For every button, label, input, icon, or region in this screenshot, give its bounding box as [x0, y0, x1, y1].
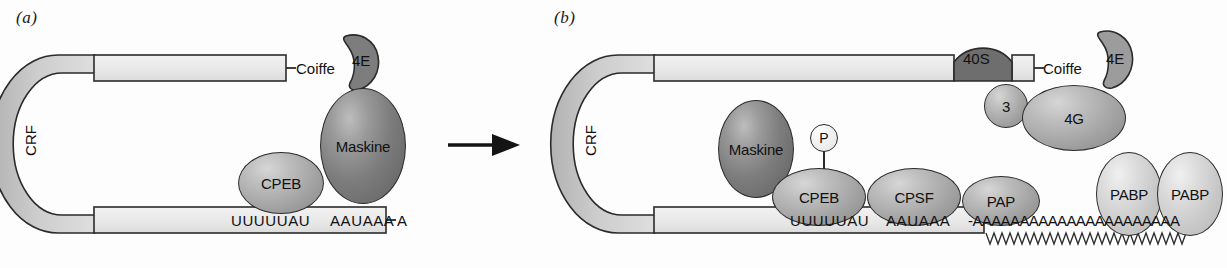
panel-b-seq-hexanucleotide: AAUAAA: [886, 212, 950, 229]
panel-b-protein-cpsf-label: CPSF: [894, 189, 933, 206]
panel-b-cap-label: Coiffe: [1043, 60, 1082, 77]
panel-b-phosphate-label: P: [819, 130, 828, 146]
panel-b-protein-4e-label: 4E: [1106, 50, 1124, 67]
panel-b-phosphate: P: [810, 124, 838, 152]
panel-b-polya-tail: -AAAAAAAAAAAAAAAAAAAAAA: [968, 212, 1179, 229]
panel-b-protein-40s-label: 40S: [963, 50, 990, 67]
panel-b-protein-pabp-2-label: PABP: [1171, 186, 1209, 203]
figure-canvas: (a): [0, 0, 1227, 268]
panel-b-protein-4g: 4G: [1022, 85, 1126, 151]
panel-b-crf-label: CRF: [582, 125, 599, 156]
panel-b-protein-maskine-label: Maskine: [729, 141, 783, 158]
panel-b-cap-box: [1012, 55, 1034, 81]
panel-b-protein-cpeb-label: CPEB: [799, 189, 839, 206]
panel-b-protein-4g-label: 4G: [1064, 110, 1084, 127]
panel-b-crf-arm: [551, 55, 655, 233]
panel-b-mrna-top-bar: [654, 55, 954, 81]
panel-b-polya-ticks: [986, 233, 1186, 244]
panel-b-protein-pap-label: PAP: [987, 193, 1015, 210]
panel-b-protein-pabp-1-label: PABP: [1110, 186, 1148, 203]
panel-b-protein-eif3-label: 3: [1002, 98, 1010, 115]
panel-b-seq-cpe: UUUUUAU: [790, 212, 869, 229]
